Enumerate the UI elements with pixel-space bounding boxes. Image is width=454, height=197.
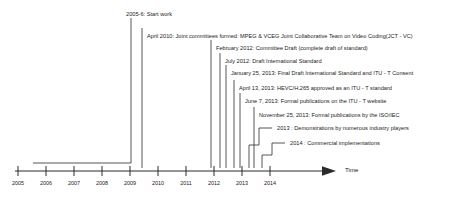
time-axis-group xyxy=(15,166,336,176)
event-label-jct-vc-formed: April 2010: Joint committees formed: MPE… xyxy=(147,33,413,40)
event-label-hevc-h265-approved: April 13, 2013: HEVC/H.265 approved as a… xyxy=(239,85,392,92)
axis-tick-label-2008: 2008 xyxy=(96,180,108,186)
axis-tick-label-2006: 2006 xyxy=(40,180,52,186)
connector-start-work xyxy=(33,18,131,163)
axis-tick-label-2005: 2005 xyxy=(12,180,24,186)
axis-tick-label-2011: 2011 xyxy=(180,180,192,186)
event-label-formal-publications-iso-iec: November 25, 2013: Formal publications b… xyxy=(259,112,400,119)
event-label-formal-publications-itu-t: June 7, 2013: Formal publications on the… xyxy=(245,98,386,105)
right-arrow-icon xyxy=(322,166,336,176)
axis-tick-label-2007: 2007 xyxy=(68,180,80,186)
event-label-draft-international-standard: July 2012: Draft International Standard xyxy=(225,58,322,65)
axis-tick-label-2009: 2009 xyxy=(124,180,136,186)
axis-tick-label-2013: 2013 xyxy=(236,180,248,186)
event-label-start-work: 2005-6: Start work xyxy=(126,11,172,18)
event-label-demonstrations-industry: 2013 : Demonstrations by numerous indust… xyxy=(277,125,409,132)
connector-demonstrations-industry xyxy=(249,128,272,168)
event-label-commercial-implementations: 2014 : Commercial implementations xyxy=(290,140,380,147)
axis-tick-label-2010: 2010 xyxy=(152,180,164,186)
axis-title: Time xyxy=(345,166,359,173)
axis-tick-label-2012: 2012 xyxy=(208,180,220,186)
connector-commercial-implementations xyxy=(262,143,285,168)
axis-tick-label-2014: 2014 xyxy=(264,180,276,186)
event-connector-group xyxy=(33,18,285,168)
event-label-final-draft-itu-t-consent: January 25, 2013: Final Draft Internatio… xyxy=(231,70,413,77)
event-label-committee-draft: February 2012: Committee Draft (complete… xyxy=(216,45,368,52)
timeline-diagram: 2005-6: Start workApril 2010: Joint comm… xyxy=(0,0,454,197)
